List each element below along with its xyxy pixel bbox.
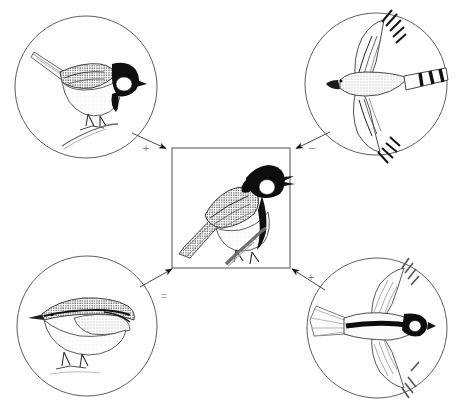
diagram-canvas: + – = + bbox=[0, 0, 456, 412]
sign-bottom-right: + bbox=[308, 271, 314, 283]
bird-interaction-diagram: + – = + bbox=[0, 0, 456, 412]
node-bottom-left[interactable] bbox=[17, 256, 157, 396]
center-node[interactable] bbox=[172, 148, 295, 268]
sign-bottom-left: = bbox=[161, 290, 167, 302]
sign-top-right: – bbox=[309, 141, 316, 153]
node-bottom-right[interactable] bbox=[307, 258, 447, 398]
node-top-left[interactable] bbox=[15, 16, 157, 158]
sign-top-left: + bbox=[143, 142, 149, 154]
